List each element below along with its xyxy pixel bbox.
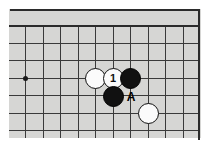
figure-frame-top-rule xyxy=(10,9,200,11)
grid-line-horizontal-6 xyxy=(7,130,198,131)
black-stone-right[interactable] xyxy=(120,68,141,89)
page-margin-right xyxy=(201,0,209,145)
page-margin-top xyxy=(0,0,209,9)
board-top-edge-line xyxy=(7,25,198,27)
black-stone-below[interactable] xyxy=(103,86,124,107)
grid-line-horizontal-1 xyxy=(7,43,198,44)
point-a-label: A xyxy=(127,91,136,103)
hoshi-left-icon xyxy=(23,76,28,81)
go-diagram-screenshot: 1 A xyxy=(0,0,209,145)
stone-move-number: 1 xyxy=(110,73,116,84)
page-margin-bottom xyxy=(0,138,209,145)
figure-frame-right-rule xyxy=(198,9,200,140)
grid-line-horizontal-2 xyxy=(7,60,198,61)
grid-line-horizontal-5 xyxy=(7,113,198,114)
page-margin-left xyxy=(0,0,9,145)
white-stone-low[interactable] xyxy=(138,103,159,124)
